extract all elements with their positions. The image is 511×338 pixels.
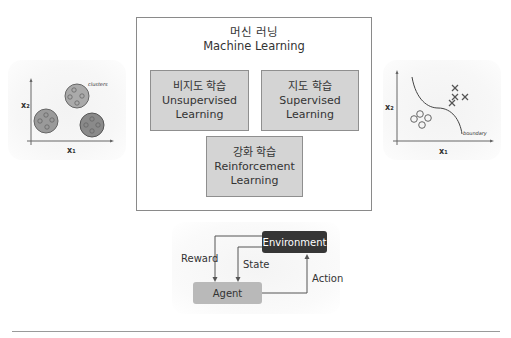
agent-node: Agent — [193, 282, 262, 304]
environment-node: Environment — [262, 231, 327, 253]
reward-label: Reward — [181, 253, 218, 264]
divider-line — [12, 331, 500, 332]
state-label: State — [243, 259, 269, 270]
action-label: Action — [312, 273, 343, 284]
